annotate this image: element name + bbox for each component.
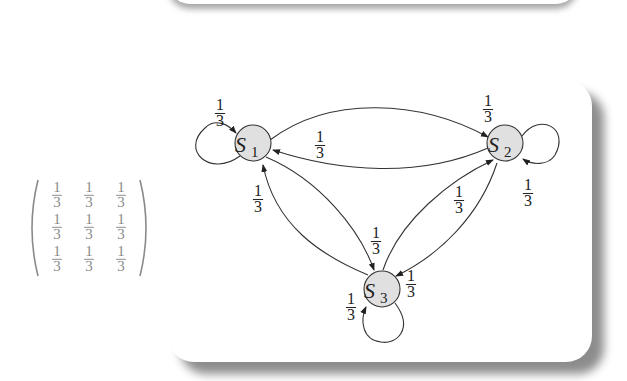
svg-text:3: 3 [455,199,463,216]
edge-s1-s2 [270,108,488,140]
label-s3-s1: 13 [253,182,263,215]
svg-text:3: 3 [380,290,388,306]
svg-text:3: 3 [216,112,224,129]
svg-text:1: 1 [251,144,259,160]
svg-text:1: 1 [484,92,492,109]
label-s1-s2: 13 [483,92,493,125]
svg-text:3: 3 [347,306,355,323]
svg-text:3: 3 [316,144,324,161]
edge-s3-s3 [363,303,403,342]
edge-s3-s2 [383,160,493,270]
svg-text:1: 1 [455,183,463,200]
label-s3-s3: 13 [346,290,356,323]
svg-text:S: S [364,278,375,303]
node-s2: S 2 [487,125,523,161]
svg-text:2: 2 [504,144,512,160]
svg-text:S: S [488,132,499,157]
svg-text:3: 3 [372,240,380,257]
svg-text:3: 3 [254,198,262,215]
label-s2-s1: 13 [315,128,325,161]
edge-s2-s2 [522,124,559,163]
label-s2-s2: 13 [523,176,533,209]
edge-s3-s1 [263,165,368,275]
svg-text:3: 3 [484,108,492,125]
label-s1-s3: 13 [371,224,381,257]
svg-text:3: 3 [524,192,532,209]
label-s3-s2: 13 [454,183,464,216]
label-s2-s3: 13 [406,267,416,300]
svg-text:1: 1 [254,182,262,199]
svg-text:3: 3 [407,283,415,300]
svg-text:1: 1 [372,224,380,241]
svg-text:1: 1 [407,267,415,284]
svg-text:1: 1 [216,96,224,113]
svg-text:1: 1 [316,128,324,145]
node-s3: S 3 [364,271,400,307]
svg-text:S: S [235,132,246,157]
node-s1: S 1 [235,125,271,161]
edge-s2-s1 [273,148,488,169]
svg-text:1: 1 [347,290,355,307]
markov-chain-graph: S 1 S 2 S 3 131313131313131313 [0,0,627,381]
edge-s2-s3 [396,163,497,276]
svg-text:1: 1 [524,176,532,193]
label-s1-s1: 13 [215,96,225,129]
edge-s1-s3 [266,157,374,270]
edge-s1-s1 [196,123,240,164]
